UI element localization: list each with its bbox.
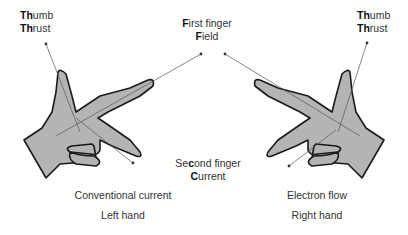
right-hand-label: Right hand xyxy=(262,209,372,222)
left-first-finger-axis xyxy=(56,54,201,136)
left-hand-label: Left hand xyxy=(68,209,178,222)
right-caption: Electron flow xyxy=(262,189,372,202)
first-rest: irst finger xyxy=(189,17,232,29)
left-caption: Conventional current xyxy=(68,189,178,202)
fleming-rules-diagram: Thumb Thrust Thumb Thrust First finger F… xyxy=(0,0,408,235)
field-rest: ield xyxy=(202,30,218,42)
right-thumb-bold: Th xyxy=(357,9,370,21)
left-hand xyxy=(24,70,153,178)
left-thumb-rest: umb xyxy=(33,9,53,21)
right-thumb-label: Thumb Thrust xyxy=(357,9,390,35)
left-thrust-bold: Th xyxy=(20,22,33,34)
current-rest: urrent xyxy=(198,170,225,182)
current-bold: C xyxy=(190,170,198,182)
right-thrust-bold: Th xyxy=(357,22,370,34)
first-finger-label: First finger Field xyxy=(174,17,240,43)
left-thumb-bold: Th xyxy=(20,9,33,21)
right-thrust-rest: rust xyxy=(370,22,388,34)
second-finger-label: Second finger Current xyxy=(168,157,248,183)
left-thrust-rest: rust xyxy=(33,22,51,34)
right-thumb-rest: umb xyxy=(370,9,390,21)
second-rest: ond finger xyxy=(194,157,241,169)
second-pre: Se xyxy=(175,157,188,169)
left-thumb-label: Thumb Thrust xyxy=(20,9,53,35)
right-hand xyxy=(255,70,384,178)
